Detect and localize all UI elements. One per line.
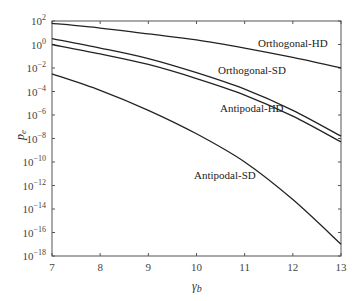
error-probability-chart: 7891011121310210010−210−410−610−810−1010… [0,0,360,301]
curve-antipodal-hd [52,45,341,143]
x-tick-label: 7 [49,261,55,273]
x-tick-label: 8 [97,261,103,273]
x-tick-label: 10 [191,261,203,273]
y-tick-label: 10−12 [22,178,46,192]
x-tick-label: 9 [146,261,152,273]
x-tick-label: 11 [239,261,250,273]
y-tick-label: 10−8 [26,131,46,145]
x-axis-label: γb [192,279,202,294]
y-tick-label: 10−10 [22,154,46,168]
y-tick-label: 10−18 [22,248,46,262]
axis-ticks: 7891011121310210010−210−410−610−810−1010… [22,13,347,273]
x-tick-label: 13 [336,261,348,273]
y-tick-label: 10−2 [26,60,46,74]
plot-frame [52,21,341,256]
label-antipodal-sd: Antipodal-SD [194,169,256,181]
y-tick-label: 10−4 [26,84,46,98]
curves [52,23,341,244]
y-tick-label: 10−14 [22,201,46,215]
y-tick-label: 10−6 [26,107,46,121]
y-axis-label: pe [13,130,28,141]
curve-antipodal-sd [52,74,341,244]
label-antipodal-hd: Antipodal-HD [220,102,284,114]
label-orthogonal-hd: Orthogonal-HD [258,37,328,49]
y-tick-label: 102 [31,13,46,27]
y-tick-label: 100 [31,37,46,51]
label-orthogonal-sd: Orthogonal-SD [218,64,286,76]
x-tick-label: 12 [287,261,298,273]
y-tick-label: 10−16 [22,225,46,239]
